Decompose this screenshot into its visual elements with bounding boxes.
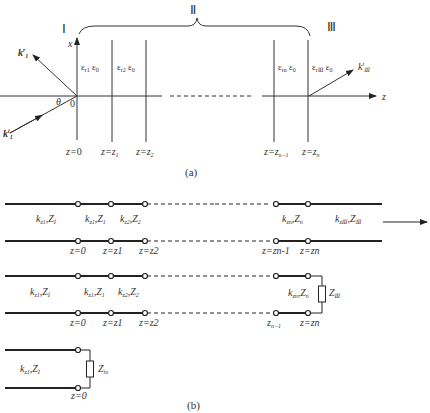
line3-section-label: kz1,ZⅠ xyxy=(20,364,40,375)
caption-b: (b) xyxy=(187,400,200,411)
layer-2-permittivity: εr2 ε0 xyxy=(117,63,135,73)
x-axis-label: x xyxy=(68,39,72,49)
figure-b xyxy=(5,202,427,391)
region-ii-label: Ⅱ xyxy=(190,3,196,16)
reflected-wave-arrow xyxy=(33,55,77,96)
line1-section-2-label: kz2,Z2 xyxy=(120,214,141,225)
line2-section-i-label: kz1,ZⅠ xyxy=(30,287,50,298)
line2-section-2-label: kz2,Z2 xyxy=(118,287,139,298)
line1-section-n-label: kzn,Zn xyxy=(282,214,303,225)
transmitted-wave-label: ktⅢ xyxy=(358,61,370,73)
line2-node-zn: z=zn xyxy=(300,318,320,328)
line1-section-1-label: kz1,Z1 xyxy=(85,214,106,225)
transmitted-wave-arrow xyxy=(309,70,353,96)
load-z3-resistor xyxy=(319,286,326,302)
incident-wave-arrow xyxy=(10,115,42,133)
reflected-wave-label: kr1 xyxy=(18,47,28,59)
origin-label: 0 xyxy=(70,99,75,109)
boundary-label-z2: z=z2 xyxy=(136,147,154,158)
line1-section-iii-label: kzⅢ,ZⅢ xyxy=(335,214,361,225)
line1-node-0: z=0 xyxy=(70,246,86,256)
z-axis-label: z xyxy=(382,92,386,102)
line1-node-zn-1: z=zn-1 xyxy=(262,246,290,256)
line1-node-z1: z=z1 xyxy=(103,246,123,256)
region-ii-brace xyxy=(79,18,310,36)
line2-node-z1: z=z1 xyxy=(103,318,123,328)
line2-node-0: z=0 xyxy=(70,318,86,328)
boundary-label-0: z=0 xyxy=(66,147,82,157)
caption-a: (a) xyxy=(185,167,197,178)
line3-load-label: Zin xyxy=(98,364,108,375)
line2-node-zn-1: zn−1 xyxy=(267,318,281,329)
line1-node-z2: z=z2 xyxy=(139,246,159,256)
line1-section-i-label: kz1,ZⅠ xyxy=(36,214,56,225)
line2-node-z2: z=z2 xyxy=(139,318,159,328)
figure-a xyxy=(0,18,376,142)
load-zin-resistor xyxy=(87,361,94,377)
layer-n-permittivity: εrn ε0 xyxy=(278,63,296,73)
region-i-label: Ⅰ xyxy=(62,22,66,35)
line2-load-label: ZⅢ xyxy=(329,288,340,299)
boundary-label-zn-1: z=zn−1 xyxy=(264,147,289,158)
incident-wave-label: ki1 xyxy=(3,128,13,140)
layer-1-permittivity: εr1 ε0 xyxy=(81,63,99,73)
line2-section-1-label: kz1,Z1 xyxy=(84,287,105,298)
theta-label: θ xyxy=(56,97,61,107)
line2-section-n-label: kzn,Zn xyxy=(288,288,309,299)
layer-iii-permittivity: εrⅢ ε0 xyxy=(312,63,333,73)
boundary-label-z1: z=z1 xyxy=(101,147,119,158)
line1-node-zn: z=zn xyxy=(300,246,320,256)
region-iii-label: Ⅲ xyxy=(327,20,336,33)
boundary-label-zn: z=zn xyxy=(302,147,320,158)
line3-node-0: z=0 xyxy=(71,391,87,401)
